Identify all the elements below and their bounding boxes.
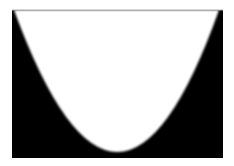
parabola-figure bbox=[0, 0, 234, 166]
